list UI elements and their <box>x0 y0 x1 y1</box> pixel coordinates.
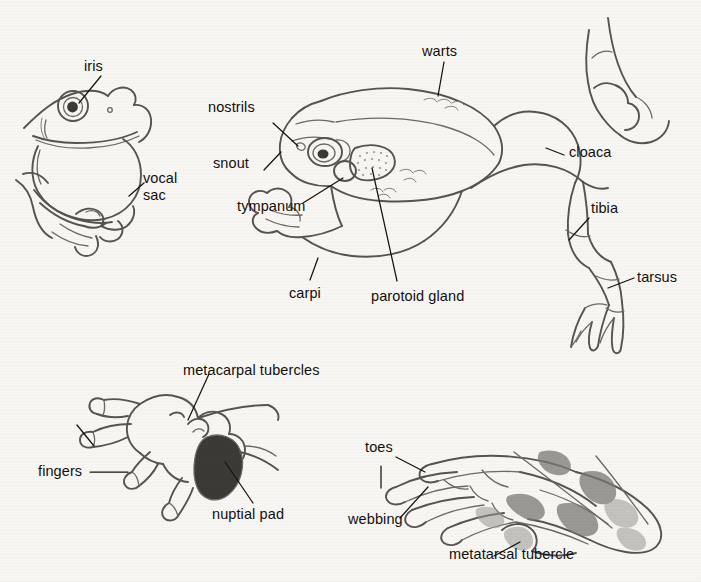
label-fingers: fingers <box>38 463 82 480</box>
leader-carpi <box>310 258 318 280</box>
foot-drawing <box>381 450 661 556</box>
leader-snout <box>264 152 281 170</box>
label-carpi: carpi <box>289 285 321 302</box>
calling-male-head-drawing <box>16 76 151 256</box>
label-nuptial-pad: nuptial pad <box>212 506 284 523</box>
label-tympanum: tympanum <box>237 198 306 215</box>
label-warts: warts <box>422 43 457 60</box>
label-tarsus: tarsus <box>637 269 677 286</box>
leader-cloaca <box>546 148 564 155</box>
label-snout: snout <box>213 155 249 172</box>
frog-anatomy-artwork: .ln { fill:none; stroke:#565350; stroke-… <box>0 0 701 582</box>
hand-drawing <box>77 374 279 520</box>
label-toes: toes <box>365 439 393 456</box>
label-tibia: tibia <box>591 200 618 217</box>
label-metacarpal-tubercles: metacarpal tubercles <box>183 362 320 379</box>
frog-anatomy-figure: .ln { fill:none; stroke:#565350; stroke-… <box>0 0 701 582</box>
label-webbing: webbing <box>348 511 403 528</box>
label-iris: iris <box>84 58 103 75</box>
label-nostrils: nostrils <box>208 99 255 116</box>
label-metatarsal-tubercle: metatarsal tubercle <box>449 546 574 563</box>
label-vocal-sac: vocal sac <box>143 170 177 204</box>
leader-parotoid-gland <box>372 168 397 281</box>
leader-iris <box>79 76 101 103</box>
label-cloaca: cloaca <box>569 144 612 161</box>
leader-toes <box>396 457 425 472</box>
leader-warts <box>438 62 444 96</box>
label-parotoid-gland: parotoid gland <box>371 288 464 305</box>
